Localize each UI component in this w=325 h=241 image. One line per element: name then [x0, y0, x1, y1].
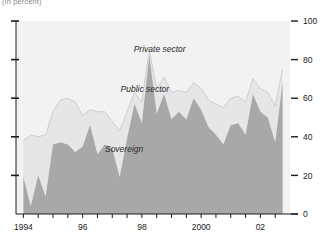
y-tick-label: 100: [303, 16, 317, 26]
x-tick-label: 98: [137, 222, 147, 232]
y-tick-label: 0: [303, 209, 308, 219]
y-tick-label: 80: [303, 55, 313, 65]
y-tick-label: 20: [303, 171, 313, 181]
x-tick-label: 96: [78, 222, 88, 232]
x-tick-label: 02: [256, 222, 266, 232]
x-tick-label: 2000: [192, 222, 211, 232]
y-tick-label: 60: [303, 93, 313, 103]
y-tick-label: 40: [303, 132, 313, 142]
series-label-public-sector: Public sector: [121, 84, 171, 94]
chart-container: (In percent) 02040608010019949698200002 …: [0, 0, 325, 241]
series-label-sovereign: Sovereign: [105, 144, 144, 154]
series-label-private-sector: Private sector: [134, 44, 187, 54]
area-chart: 02040608010019949698200002 Private secto…: [0, 0, 325, 241]
x-tick-label: 1994: [14, 222, 33, 232]
chart-subtitle: (In percent): [2, 0, 42, 6]
